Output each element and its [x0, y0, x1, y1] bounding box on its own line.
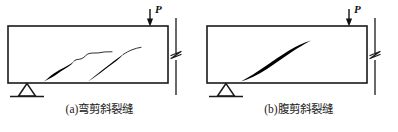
web-shear-crack-1: [241, 41, 311, 82]
panel-flexural-shear: P (a)弯剪斜裂缝: [0, 0, 199, 132]
down-arrow-icon: [147, 9, 153, 27]
figure-root: P (a)弯剪斜裂缝: [0, 0, 398, 132]
triangle-support-icon: [209, 84, 243, 97]
flexural-shear-crack-1: [44, 52, 112, 82]
zigzag-break-icon: [171, 18, 181, 95]
down-arrow-icon: [346, 9, 352, 27]
panel-caption: (b)腹剪斜裂缝: [199, 100, 398, 116]
zigzag-break-icon: [370, 18, 380, 95]
panel-caption: (a)弯剪斜裂缝: [0, 100, 199, 116]
beam-outline: [8, 26, 168, 83]
panel-web-shear: P (b)腹剪斜裂缝: [199, 0, 398, 132]
flexural-shear-crack-2: [88, 47, 141, 81]
load-label: P: [155, 3, 162, 15]
load-label: P: [354, 3, 361, 15]
triangle-support-icon: [10, 84, 44, 97]
